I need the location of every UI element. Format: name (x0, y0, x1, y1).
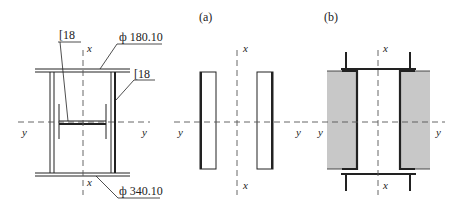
axis-x-bottom-a: x (243, 180, 248, 191)
cross-section-figure: (a) (b) [18 ф 180.10 [18 ф 340.10 x x y … (0, 0, 464, 216)
axis-y-left-a: y (178, 127, 183, 138)
original-section (35, 42, 162, 198)
axis-x-top-original: x (87, 43, 92, 54)
channel-right-label: [18 (134, 68, 150, 80)
panel-label-a: (a) (199, 11, 212, 23)
axis-x-top-b: x (383, 43, 388, 54)
axis-x-bottom-b: x (383, 180, 388, 191)
panel-a-axes (174, 50, 302, 195)
axis-y-left-original: y (22, 127, 27, 138)
channel-top-label: [18 (59, 29, 75, 41)
axis-y-right-original: y (142, 127, 147, 138)
axis-x-bottom-original: x (87, 177, 92, 188)
plate-bottom-label: ф 340.10 (119, 185, 163, 197)
axis-y-right-a: y (296, 127, 301, 138)
plate-top-label: ф 180.10 (119, 31, 163, 43)
panel-a-section (200, 72, 273, 169)
axis-y-right-b: y (436, 127, 441, 138)
axis-y-left-b: y (318, 127, 323, 138)
axis-x-top-a: x (243, 43, 248, 54)
panel-label-b: (b) (324, 11, 338, 23)
panel-b-section (327, 52, 430, 191)
